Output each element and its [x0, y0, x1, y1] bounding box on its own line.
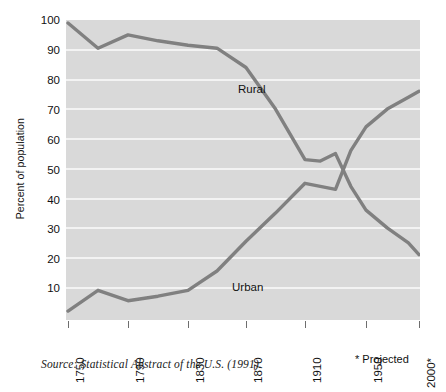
y-tick-label-40: 40: [32, 194, 60, 206]
x-tick-1790: [128, 321, 129, 328]
y-tick-label-100: 100: [32, 14, 60, 26]
x-tick-label-1910: 1910: [311, 357, 323, 383]
rural-line: [68, 23, 419, 255]
series-lines: [66, 20, 420, 320]
x-tick-2000: [419, 321, 420, 328]
y-tick-label-30: 30: [32, 223, 60, 235]
x-tick-1950: [366, 321, 367, 328]
x-tick-1910: [305, 321, 306, 328]
x-tick-1830: [188, 321, 189, 328]
population-trend-chart: Percent of population 100 90 80 70 60 50…: [0, 0, 446, 392]
x-tick-1750: [68, 321, 69, 328]
urban-line: [68, 91, 419, 311]
plot-area: Rural Urban: [66, 20, 420, 320]
y-tick-label-20: 20: [32, 253, 60, 265]
y-tick-label-80: 80: [32, 74, 60, 86]
projected-footnote: * Projected: [355, 353, 409, 365]
y-tick-label-10: 10: [32, 282, 60, 294]
x-tick-1870: [246, 321, 247, 328]
rural-series-label: Rural: [238, 83, 265, 95]
source-note: Source: Statistical Abstract of the U.S.…: [41, 358, 262, 370]
y-tick-label-50: 50: [32, 164, 60, 176]
y-axis-title: Percent of population: [14, 118, 26, 219]
x-tick-label-2000: 2000*: [425, 358, 437, 388]
urban-series-label: Urban: [232, 281, 263, 293]
y-tick-label-60: 60: [32, 134, 60, 146]
y-tick-label-90: 90: [32, 44, 60, 56]
y-tick-label-70: 70: [32, 104, 60, 116]
